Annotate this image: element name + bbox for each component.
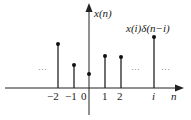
stem-n-i xyxy=(152,35,156,88)
tick-label-minus-2: −2 xyxy=(47,90,59,102)
tick-label-1: 1 xyxy=(102,90,108,102)
stem-n-1 xyxy=(103,54,107,88)
tick-label-0: 0 xyxy=(81,90,87,102)
annotation-label: x(i)δ(n−i) xyxy=(125,22,170,35)
stem-n-0 xyxy=(87,72,91,76)
tick-label-2: 2 xyxy=(117,90,123,102)
y-axis-label: x(n) xyxy=(93,7,112,20)
x-axis-label: n xyxy=(171,90,177,102)
tick-label-i: i xyxy=(152,90,155,102)
tick-label-minus-1: −1 xyxy=(65,90,77,102)
stem-n-2 xyxy=(119,55,123,88)
y-axis-arrow-icon xyxy=(86,3,93,12)
ellipsis-right: ··· xyxy=(161,64,170,74)
ellipsis-left: ··· xyxy=(38,64,47,74)
stem-diagram: ··· ··· ··· x(n) x(i)δ(n−i) n −2 −1 0 1 … xyxy=(0,0,191,120)
stem-n-minus-1 xyxy=(72,63,76,88)
ellipsis-mid: ··· xyxy=(131,64,140,74)
stem-n-minus-2 xyxy=(56,42,60,88)
